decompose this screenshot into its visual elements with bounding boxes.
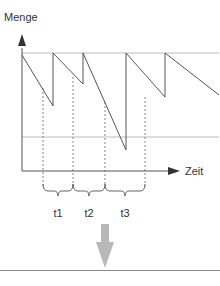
brace-t1: [43, 184, 73, 196]
interval-label-t3: t3: [120, 207, 129, 219]
y-axis-label: Menge: [4, 11, 38, 23]
down-arrow-icon: [96, 242, 114, 268]
x-axis-arrow-icon: [168, 167, 180, 175]
down-arrow-shaft: [101, 224, 109, 243]
x-axis-label: Zeit: [185, 165, 203, 177]
brace-t2: [73, 184, 105, 196]
y-axis-arrow-icon: [18, 34, 26, 46]
brace-t3: [105, 184, 145, 196]
interval-label-t2: t2: [84, 207, 93, 219]
interval-label-t1: t1: [53, 207, 62, 219]
inventory-curve: [22, 53, 219, 150]
inventory-sawtooth-diagram: Menge Zeit t1 t2 t3: [0, 0, 220, 286]
